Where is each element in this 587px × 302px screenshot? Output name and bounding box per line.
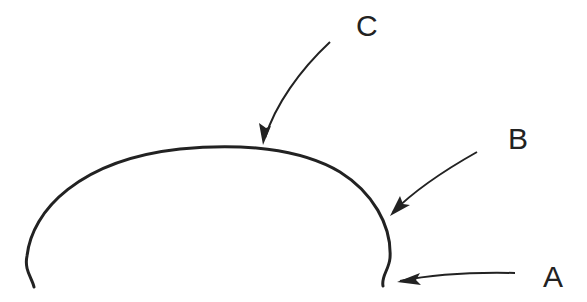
diagram-canvas — [0, 0, 587, 302]
label-a: A — [543, 262, 563, 292]
arrow-a — [397, 273, 515, 285]
label-c: C — [356, 11, 378, 41]
arrowhead-a-icon — [397, 273, 421, 285]
profile-curve — [26, 147, 390, 287]
label-b: B — [508, 124, 528, 154]
arrow-c — [259, 42, 330, 145]
arrow-b — [390, 152, 477, 216]
